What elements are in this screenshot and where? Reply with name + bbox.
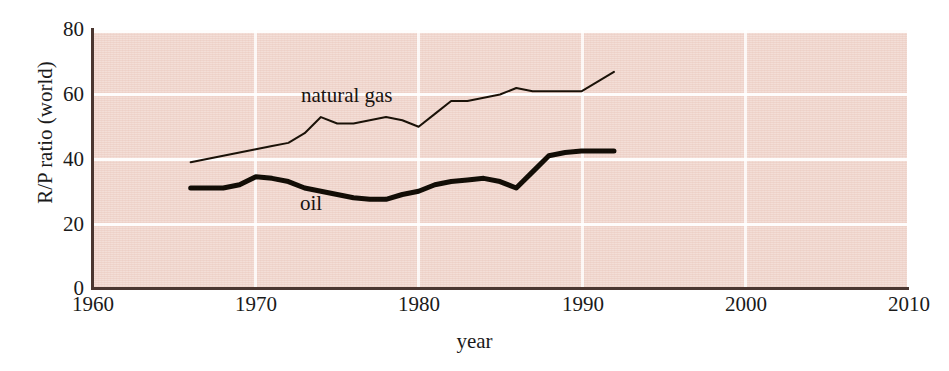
- x-tick-label-1960: 1960: [38, 292, 148, 316]
- y-axis-title: R/P ratio (world): [33, 3, 58, 263]
- x-tick-label-1980: 1980: [364, 292, 474, 316]
- series-plot: [93, 30, 907, 288]
- figure-container: 80 60 40 20 0 1960 1970 1980 1990 2000 2…: [0, 0, 949, 371]
- series-label-natural-gas: natural gas: [301, 85, 393, 106]
- x-tick-label-1990: 1990: [528, 292, 638, 316]
- y-axis-spine: [91, 28, 94, 290]
- line-oil: [191, 151, 614, 199]
- x-axis-title: year: [0, 329, 949, 354]
- caption-sliver: [10, 361, 939, 371]
- x-axis-spine: [91, 287, 909, 290]
- x-tick-label-2010: 2010: [854, 292, 949, 316]
- line-natural-gas: [191, 72, 614, 162]
- plot-area: [93, 30, 907, 288]
- x-tick-label-1970: 1970: [201, 292, 311, 316]
- x-tick-label-2000: 2000: [691, 292, 801, 316]
- series-label-oil: oil: [300, 193, 322, 214]
